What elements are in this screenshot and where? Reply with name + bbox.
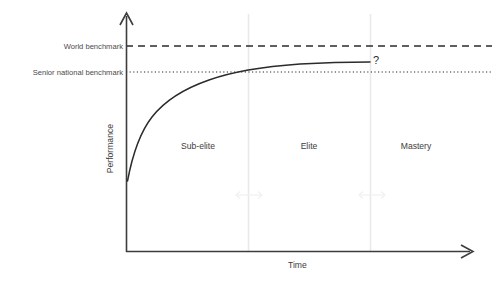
unknown-marker-annotation: ? <box>373 55 379 66</box>
performance-development-chart: World benchmark Senior national benchmar… <box>0 0 500 285</box>
region-label-mastery: Mastery <box>376 142 456 151</box>
region-label-sub-elite: Sub-elite <box>163 142 233 151</box>
world-benchmark-label: World benchmark <box>64 43 123 51</box>
x-axis-label: Time <box>288 261 307 270</box>
y-axis-label: Performance <box>106 124 115 173</box>
region-label-elite: Elite <box>274 142 344 151</box>
drag-handle-right-icon[interactable] <box>359 192 385 199</box>
senior-national-benchmark-label: Senior national benchmark <box>33 69 123 77</box>
